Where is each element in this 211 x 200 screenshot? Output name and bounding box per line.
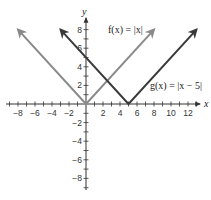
y-tick-label: −2 bbox=[72, 118, 82, 128]
x-tick-label: −8 bbox=[13, 108, 23, 118]
y-tick-label: −4 bbox=[72, 136, 82, 146]
y-tick-label: 8 bbox=[77, 25, 82, 35]
x-tick-label: −2 bbox=[64, 108, 74, 118]
x-tick-label: 2 bbox=[101, 108, 106, 118]
y-axis-name: y bbox=[81, 6, 87, 17]
x-tick-label: 4 bbox=[118, 108, 123, 118]
x-tick-label: 12 bbox=[183, 108, 193, 118]
x-tick-label: 6 bbox=[135, 108, 140, 118]
x-axis-name: x bbox=[203, 98, 209, 109]
x-tick-label: 8 bbox=[152, 108, 157, 118]
y-tick-label: 4 bbox=[77, 62, 82, 72]
x-tick-label: −6 bbox=[30, 108, 40, 118]
y-tick-label: 2 bbox=[77, 80, 82, 90]
g-label: g(x) = |x − 5| bbox=[150, 80, 202, 92]
y-tick-label: −6 bbox=[72, 155, 82, 165]
x-axis: −8−6−4−224681012 x bbox=[6, 98, 209, 118]
y-tick-label: −8 bbox=[72, 173, 82, 183]
x-tick-label: −4 bbox=[47, 108, 57, 118]
f-label: f(x) = |x| bbox=[108, 24, 143, 36]
absolute-value-graph: −8−6−4−224681012 x 8642−2−4−6−8 y f(x) =… bbox=[0, 0, 211, 200]
x-tick-label: 10 bbox=[166, 108, 176, 118]
